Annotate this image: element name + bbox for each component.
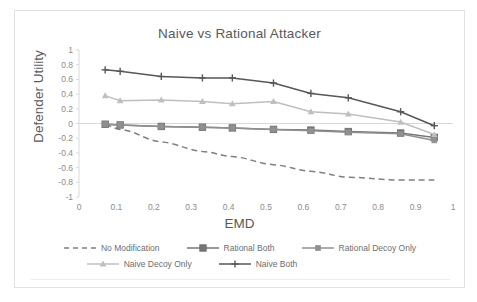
legend-item-naive-decoy-only[interactable]: Naive Decoy Only [86, 258, 192, 270]
legend-label: Rational Both [224, 244, 275, 253]
legend-separator [31, 279, 450, 280]
legend-label: No Modification [101, 244, 160, 253]
data-marker [118, 123, 123, 128]
data-marker [199, 245, 205, 251]
legend-key-none-icon [63, 242, 97, 254]
legend-key-square-icon [186, 242, 220, 254]
data-marker [271, 127, 276, 132]
legend-item-no-modification[interactable]: No Modification [63, 242, 160, 254]
data-marker [159, 124, 164, 129]
legend-label: Rational Decoy Only [339, 244, 416, 253]
legend-key-square-small-icon [301, 242, 335, 254]
data-marker [398, 131, 403, 136]
legend-key-plus-icon [218, 258, 252, 270]
data-marker [102, 92, 109, 98]
data-marker [432, 138, 437, 143]
data-marker [346, 130, 351, 135]
legend-item-rational-decoy-only[interactable]: Rational Decoy Only [301, 242, 416, 254]
legend-row: No ModificationRational BothRational Dec… [15, 242, 464, 254]
data-marker [315, 246, 320, 251]
data-marker [103, 122, 108, 127]
chart-legend: No ModificationRational BothRational Dec… [15, 242, 464, 274]
series-naive-decoy-only [102, 92, 438, 137]
series-line [105, 70, 434, 126]
data-marker [200, 125, 205, 130]
legend-item-rational-both[interactable]: Rational Both [186, 242, 275, 254]
legend-key-triangle-icon [86, 258, 120, 270]
data-marker [309, 129, 314, 134]
data-marker [230, 126, 235, 131]
legend-label: Naive Both [256, 260, 298, 269]
legend-label: Naive Decoy Only [124, 260, 192, 269]
chart-container: Naive vs Rational Attacker Defender Util… [14, 10, 465, 288]
legend-row: Naive Decoy OnlyNaive Both [15, 258, 464, 270]
legend-item-naive-both[interactable]: Naive Both [218, 258, 298, 270]
